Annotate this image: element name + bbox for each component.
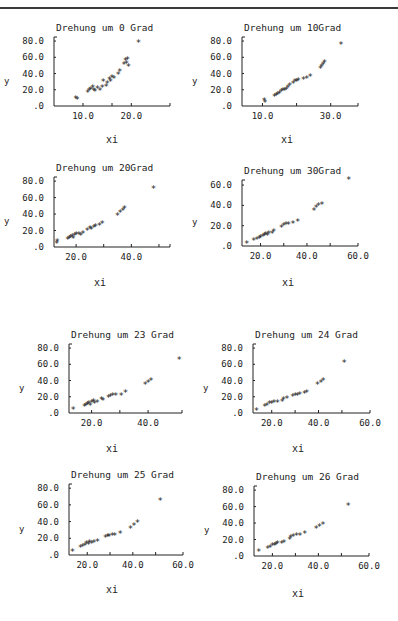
x-tick-label: 20.0 xyxy=(65,252,87,262)
y-tick-label: 80.0 xyxy=(222,485,244,495)
data-point-star: * xyxy=(55,237,60,247)
y-tick-label: .0 xyxy=(33,242,44,252)
data-point-star: * xyxy=(338,40,343,50)
y-tick-label: .0 xyxy=(48,550,59,560)
x-tick-label: 60.0 xyxy=(172,560,194,570)
data-point-star: * xyxy=(320,520,325,530)
data-point-star: * xyxy=(308,72,313,82)
y-tick-label: 20.0 xyxy=(210,221,232,231)
scatter-panel: Drehung um 10Grad.020.040.060.080.0y10.0… xyxy=(192,22,358,145)
scatter-panel: Drehung um 26 Grad.020.040.060.080.0y20.… xyxy=(204,471,380,599)
data-point-star: * xyxy=(95,537,100,547)
data-point-star: * xyxy=(254,406,259,416)
y-tick-label: .0 xyxy=(232,408,243,418)
y-axis-label: y xyxy=(204,525,210,535)
data-point-star: * xyxy=(123,388,128,398)
data-point-star: * xyxy=(322,58,327,68)
x-axis-label: xi xyxy=(292,443,304,454)
y-tick-label: 40.0 xyxy=(22,69,44,79)
y-tick-label: 80.0 xyxy=(22,36,44,46)
scatter-panel: Drehung um 23 Grad.020.040.060.080.0y20.… xyxy=(19,329,182,454)
panel-title: Drehung um 26 Grad xyxy=(256,471,359,482)
y-tick-label: 80.0 xyxy=(37,483,59,493)
scatter-panel: Drehung um 25 Grad.020.040.060.080.0y20.… xyxy=(19,469,194,595)
y-axis-label: y xyxy=(4,76,10,86)
y-axis-label: y xyxy=(19,524,25,534)
data-point-star: * xyxy=(151,184,156,194)
data-point-star: * xyxy=(346,175,351,185)
data-point-star: * xyxy=(113,391,118,401)
data-point-star: * xyxy=(284,394,289,404)
data-point-star: * xyxy=(112,531,117,541)
data-point-star: * xyxy=(319,200,324,210)
panel-title: Drehung um 10Grad xyxy=(244,22,341,33)
y-tick-label: 20.0 xyxy=(222,535,244,545)
x-axis-label: xi xyxy=(106,584,118,595)
data-point-star: * xyxy=(136,38,141,48)
scatter-plot-grid: Drehung um 0 Grad.020.040.060.080.0y10.0… xyxy=(0,0,398,621)
y-tick-label: 40.0 xyxy=(22,209,44,219)
x-tick-label: 20.0 xyxy=(261,418,283,428)
data-point-star: * xyxy=(262,98,267,108)
x-tick-label: 20.0 xyxy=(250,251,272,261)
y-tick-label: 40.0 xyxy=(221,376,243,386)
y-tick-label: 60.0 xyxy=(221,359,243,369)
scatter-panel: Drehung um 0 Grad.020.040.060.080.0y10.0… xyxy=(4,22,170,145)
x-tick-label: 10.0 xyxy=(72,111,94,121)
data-point-star: * xyxy=(118,529,123,539)
y-tick-label: .0 xyxy=(233,551,244,561)
x-axis-label: xi xyxy=(281,134,293,145)
y-tick-label: 40.0 xyxy=(210,200,232,210)
x-axis-label: xi xyxy=(106,443,118,454)
y-tick-label: .0 xyxy=(48,408,59,418)
x-tick-label: 40.0 xyxy=(120,252,142,262)
data-point-star: * xyxy=(100,219,105,229)
y-tick-label: 20.0 xyxy=(210,85,232,95)
y-tick-label: 40.0 xyxy=(222,518,244,528)
x-tick-label: 20.0 xyxy=(120,111,142,121)
data-point-star: * xyxy=(304,388,309,398)
panel-title: Drehung um 20Grad xyxy=(56,162,153,173)
x-tick-label: 20.0 xyxy=(262,561,284,571)
y-tick-label: 20.0 xyxy=(37,533,59,543)
data-point-star: * xyxy=(135,518,140,528)
panel-title: Drehung um 25 Grad xyxy=(71,469,174,480)
scatter-panel: Drehung um 24 Grad.020.040.060.080.0y20.… xyxy=(203,329,381,454)
x-tick-label: 40.0 xyxy=(122,560,144,570)
data-point-star: * xyxy=(157,496,162,506)
panel-title: Drehung um 23 Grad xyxy=(71,329,174,340)
scatter-panel: Drehung um 20Grad.020.040.060.080.0y20.0… xyxy=(4,162,170,288)
y-axis-label: y xyxy=(203,383,209,393)
y-tick-label: .0 xyxy=(33,101,44,111)
panel-title: Drehung um 0 Grad xyxy=(56,22,153,33)
x-tick-label: 60.0 xyxy=(359,418,381,428)
data-point-star: * xyxy=(320,376,325,386)
x-axis-label: xi xyxy=(282,277,294,288)
panel-title: Drehung um 30Grad xyxy=(244,165,341,176)
y-axis-label: y xyxy=(192,76,198,86)
data-point-star: * xyxy=(271,227,276,237)
y-tick-label: 80.0 xyxy=(22,176,44,186)
y-tick-label: 60.0 xyxy=(37,500,59,510)
y-tick-label: 80.0 xyxy=(221,343,243,353)
y-tick-label: 80.0 xyxy=(37,343,59,353)
y-tick-label: .0 xyxy=(221,241,232,251)
x-tick-label: 30.0 xyxy=(320,111,342,121)
x-axis-label: xi xyxy=(106,134,118,145)
data-point-star: * xyxy=(126,62,131,72)
data-point-star: * xyxy=(295,217,300,227)
x-axis-label: xi xyxy=(94,277,106,288)
data-point-star: * xyxy=(342,358,347,368)
x-tick-label: 40.0 xyxy=(296,251,318,261)
scatter-panel: Drehung um 30Grad.020.040.060.0y20.040.0… xyxy=(192,165,369,288)
y-tick-label: 60.0 xyxy=(37,359,59,369)
data-point-star: * xyxy=(176,355,181,365)
x-tick-label: 20.0 xyxy=(81,418,103,428)
y-tick-label: 40.0 xyxy=(210,69,232,79)
data-point-star: * xyxy=(256,547,261,557)
panel-title: Drehung um 24 Grad xyxy=(255,329,358,340)
y-tick-label: 20.0 xyxy=(221,392,243,402)
y-tick-label: 60.0 xyxy=(222,502,244,512)
x-tick-label: 40.0 xyxy=(308,561,330,571)
y-axis-label: y xyxy=(192,217,198,227)
